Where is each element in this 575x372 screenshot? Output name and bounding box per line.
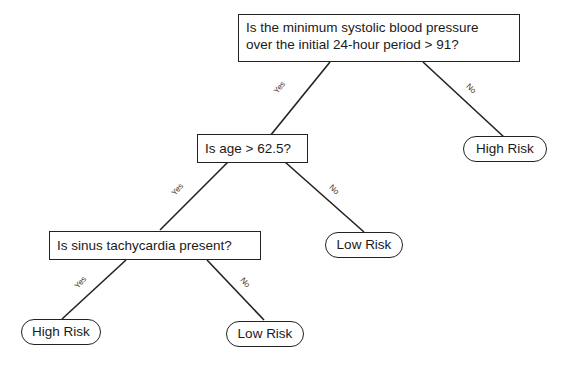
root-question-node: Is the minimum systolic blood pressure o…	[238, 14, 520, 62]
leaf-high-risk-sinus-yes: High Risk	[21, 319, 101, 345]
edge-sinus-yes	[62, 260, 126, 319]
edge-age-no	[285, 162, 364, 232]
age-question-node: Is age > 62.5?	[197, 134, 308, 163]
leaf-low-risk-age-no: Low Risk	[325, 232, 403, 258]
edge-root-yes	[270, 62, 330, 136]
leaf-low-risk-sinus-no: Low Risk	[226, 321, 304, 347]
edge-age-yes	[160, 162, 228, 230]
edge-root-no	[423, 62, 505, 138]
leaf-high-risk-root-no: High Risk	[463, 136, 547, 162]
sinus-question-node: Is sinus tachycardia present?	[49, 231, 261, 260]
root-question-line2: over the initial 24-hour period > 91?	[246, 36, 512, 53]
root-question-line1: Is the minimum systolic blood pressure	[246, 19, 512, 36]
edge-sinus-no	[207, 260, 264, 320]
